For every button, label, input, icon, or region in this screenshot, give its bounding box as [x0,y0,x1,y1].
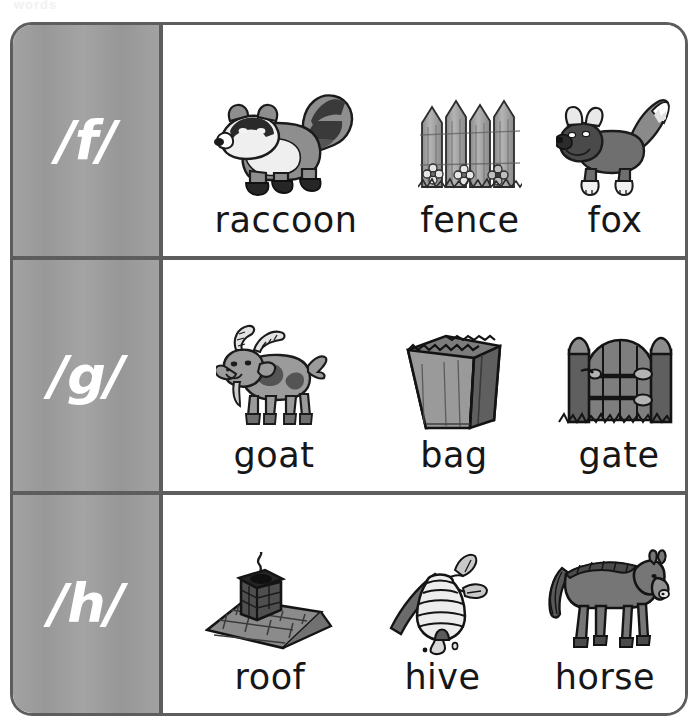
picture-word-item[interactable]: gate [539,324,688,473]
roof-chimney-icon [205,552,335,656]
table-row: /g/ [13,256,685,491]
word-label: goat [234,438,315,473]
picture-word-group: roof [163,495,688,713]
picture-word-group: goat [163,260,688,491]
word-label: roof [235,660,306,695]
word-label: horse [555,660,655,695]
horse-icon [540,544,670,656]
word-label: fence [420,203,519,238]
phoneme-label: /f/ [56,114,116,168]
phoneme-cell-g: /g/ [13,260,163,491]
picture-word-item[interactable]: roof [175,552,365,695]
raccoon-icon [210,87,362,199]
word-label: hive [404,660,480,695]
word-label: fox [588,203,643,238]
picture-word-item[interactable]: hive [365,550,520,695]
word-label: bag [420,438,487,473]
table-row: /f/ [13,25,685,256]
scan-top-cutoff-text: words [14,0,204,9]
word-label: raccoon [215,203,358,238]
picture-word-item[interactable]: raccoon [177,87,395,238]
beehive-icon [387,550,499,656]
gate-icon [557,324,681,434]
picture-word-item[interactable]: goat [179,322,369,473]
phoneme-label: /g/ [48,349,123,403]
paper-bag-icon [398,324,510,434]
goat-icon [216,322,332,434]
picture-word-item[interactable]: fox [545,91,685,238]
picture-word-item[interactable]: bag [369,324,539,473]
table-row: /h/ [13,491,685,713]
picture-word-item[interactable]: horse [520,544,688,695]
fox-icon [556,91,674,199]
phoneme-picture-table: /f/ [10,22,688,716]
fence-icon [418,91,522,199]
picture-word-item[interactable]: fence [395,91,545,238]
phoneme-cell-h: /h/ [13,495,163,713]
phoneme-cell-f: /f/ [13,25,163,256]
phoneme-label: /h/ [49,577,124,631]
word-label: gate [579,438,660,473]
picture-word-group: raccoon [163,25,688,256]
